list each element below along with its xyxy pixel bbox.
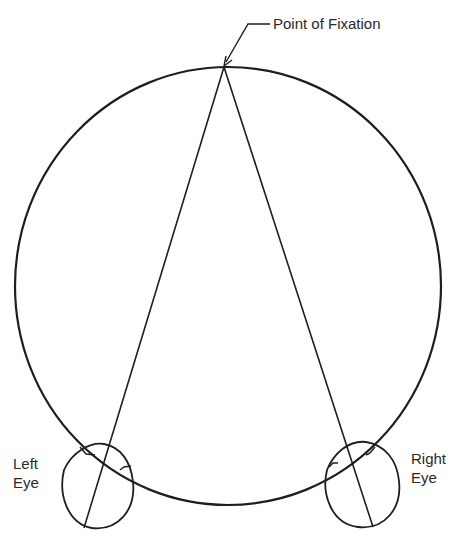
left-eye-icon xyxy=(62,444,133,529)
right-eye-label-line1: Right xyxy=(411,449,446,468)
fixation-leader xyxy=(224,24,270,66)
right-visual-axis xyxy=(224,67,373,527)
left-eye-label-line2: Eye xyxy=(13,473,39,492)
horopter-circle xyxy=(15,67,441,505)
left-eye-label-line1: Left xyxy=(13,454,39,473)
left-eye-label: Left Eye xyxy=(13,454,39,492)
diagram-canvas xyxy=(0,0,465,540)
right-eye-label-line2: Eye xyxy=(411,468,446,487)
point-of-fixation-label: Point of Fixation xyxy=(273,14,381,33)
binocular-fixation-diagram: Point of Fixation Left Eye Right Eye xyxy=(0,0,465,540)
left-visual-axis xyxy=(84,67,224,528)
right-eye-label: Right Eye xyxy=(411,449,446,487)
